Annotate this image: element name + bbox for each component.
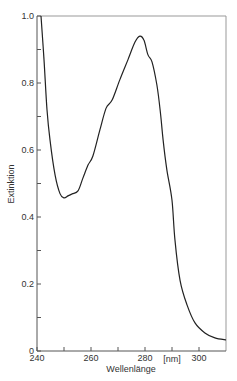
x-axis-title: Wellenlänge	[106, 364, 155, 374]
x-tick-label: 300	[191, 353, 206, 363]
y-tick-label: 0.4	[21, 212, 34, 222]
y-tick-label: 0.8	[21, 78, 34, 88]
x-axis-unit: [nm]	[163, 354, 181, 364]
extinction-chart: 24026028030000.20.40.60.81.0 Extinktion …	[0, 0, 237, 381]
y-tick-label: 1.0	[21, 11, 34, 21]
y-tick-label: 0.2	[21, 279, 34, 289]
x-tick-label: 280	[137, 353, 152, 363]
y-tick-label: 0	[29, 346, 34, 356]
y-tick-label: 0.6	[21, 145, 34, 155]
extinction-curve	[41, 16, 226, 340]
plot-frame	[37, 16, 226, 351]
tick-labels: 24026028030000.20.40.60.81.0	[21, 11, 206, 363]
x-tick-label: 260	[83, 353, 98, 363]
axis-ticks	[37, 16, 199, 351]
y-axis-title: Extinktion	[6, 164, 16, 203]
